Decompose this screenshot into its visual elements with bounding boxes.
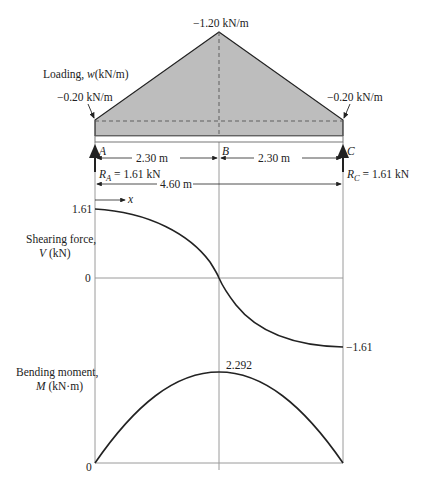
load-peak-value: −1.20 kN/m [193,17,249,29]
shear-min-label: −1.61 [346,341,373,353]
guide-lines [95,142,343,470]
beam [95,136,343,142]
moment-max-label: 2.292 [226,359,252,371]
reaction-a-label: RA = 1.61 kN [98,168,161,183]
shear-max-label: 1.61 [72,203,92,215]
span-bc-label: 2.30 m [258,152,290,164]
shear-unit: V (kN) [39,247,71,260]
shear-title: Shearing force, [26,233,96,246]
shear-zero-label: 0 [85,272,91,284]
moment-title: Bending moment, [16,366,99,379]
x-axis-label: x [127,193,134,205]
span-ab-label: 2.30 m [136,152,168,164]
point-c-label: C [347,145,355,157]
span-total-label: 4.60 m [160,178,192,190]
beam-diagram: Loading, w(kN/m) −0.20 kN/m −1.20 kN/m −… [0,0,421,491]
point-a-label: A [98,145,107,157]
moment-unit: M (kN·m) [35,380,83,393]
load-right-value: −0.20 kN/m [327,91,383,103]
load-left-value: −0.20 kN/m [57,91,113,103]
loading-title: Loading, w(kN/m) [43,68,129,81]
point-b-label: B [222,145,229,157]
moment-zero-label: 0 [86,461,92,473]
loading-diagram [88,32,350,142]
reaction-c-label: RC = 1.61 kN [346,168,410,183]
